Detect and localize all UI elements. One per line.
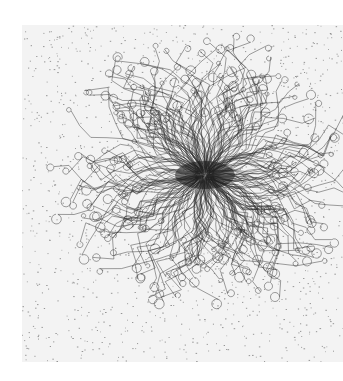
drawing-paper — [22, 25, 343, 362]
radial-filament-drawing — [22, 25, 343, 362]
